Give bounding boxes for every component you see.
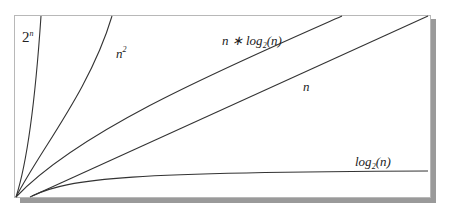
- label-post: (n): [376, 154, 391, 169]
- label-post: (n): [267, 33, 282, 48]
- label-sup: 2: [123, 45, 127, 54]
- label-log-n: log2(n): [355, 155, 391, 171]
- label-pre: n ∗ log: [222, 33, 263, 48]
- complexity-diagram: 2n n2 n ∗ log2(n) n log2(n): [0, 0, 449, 220]
- label-base: n: [303, 79, 310, 94]
- label-n: n: [303, 80, 310, 93]
- label-2-pow-n: 2n: [22, 30, 34, 45]
- frame-shadow-right: [431, 19, 436, 203]
- frame-shadow-bottom: [20, 198, 436, 203]
- label-sup: n: [30, 29, 34, 38]
- label-n-log-n: n ∗ log2(n): [222, 34, 282, 50]
- label-pre: log: [355, 154, 372, 169]
- label-base: 2: [22, 29, 30, 45]
- label-n-squared: n2: [116, 46, 127, 60]
